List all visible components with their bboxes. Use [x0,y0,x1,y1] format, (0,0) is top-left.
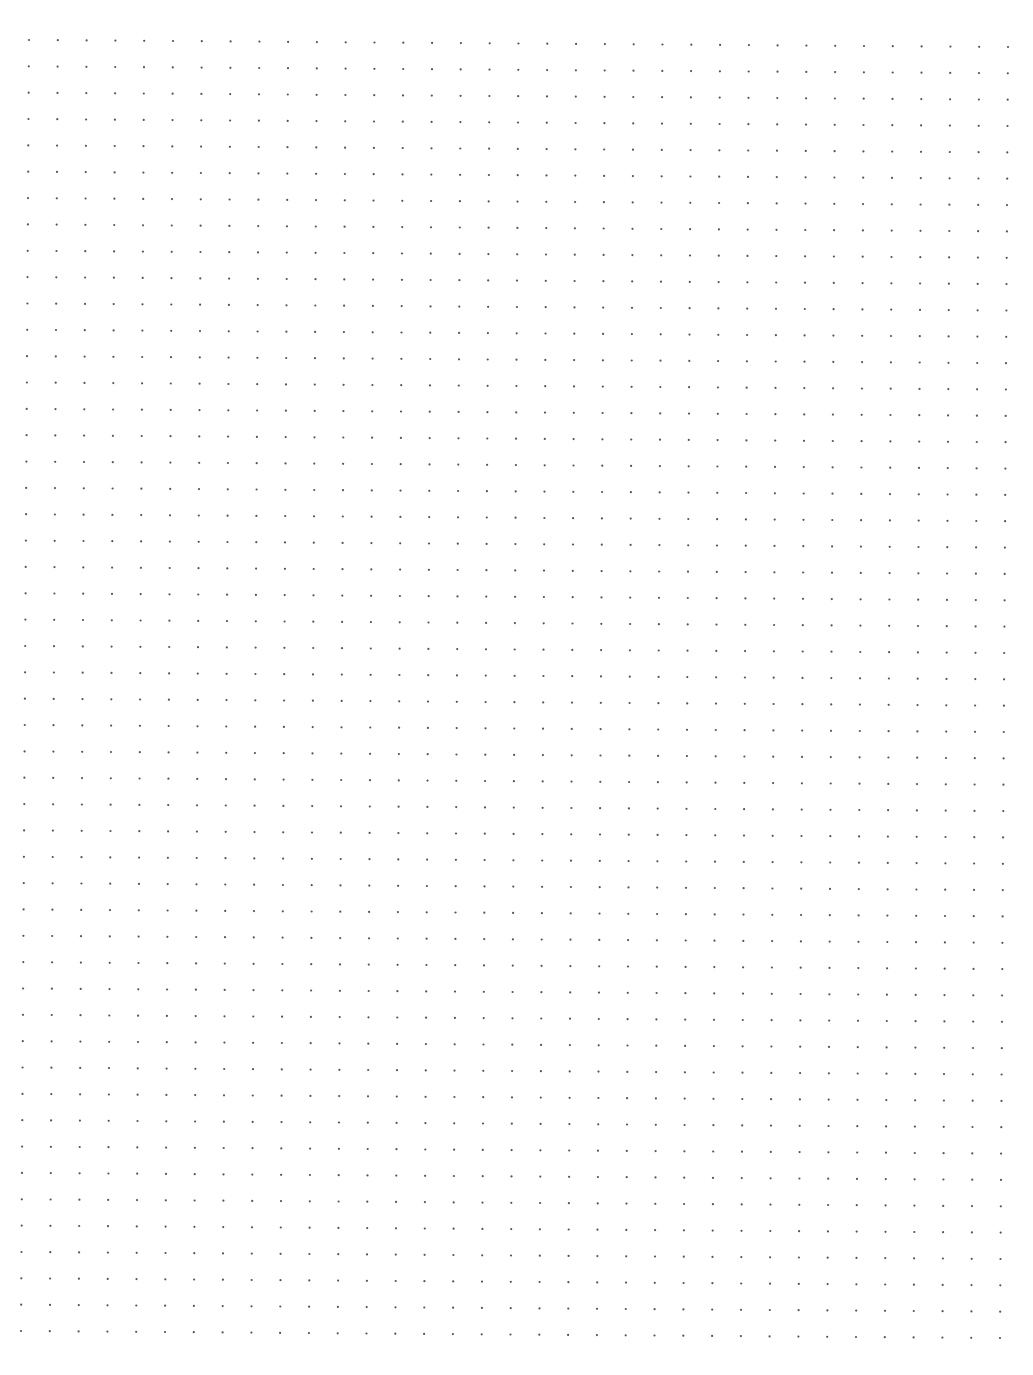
grid-dot [452,1280,454,1282]
grid-dot [546,148,548,150]
grid-dot [112,461,114,463]
grid-dot [457,516,459,518]
grid-dot [775,255,777,257]
grid-dot [713,1071,715,1073]
grid-dot [49,1330,51,1332]
grid-dot [859,625,861,627]
grid-dot [482,1175,484,1177]
grid-dot [999,1311,1001,1313]
grid-dot [337,1253,339,1255]
grid-dot [718,176,720,178]
grid-dot [1000,1126,1002,1128]
grid-dot [52,803,54,805]
grid-dot [802,624,804,626]
grid-dot [313,568,315,570]
grid-dot [774,413,776,415]
grid-dot [106,1331,108,1333]
grid-dot [855,1336,857,1338]
grid-dot [141,356,143,358]
grid-dot [863,98,865,100]
grid-dot [280,1253,282,1255]
grid-dot [141,435,143,437]
grid-dot [601,438,603,440]
grid-dot [829,835,831,837]
grid-dot [856,1099,858,1101]
grid-dot [226,594,228,596]
grid-dot [54,461,56,463]
grid-dot [512,965,514,967]
grid-dot [316,67,318,69]
grid-dot [575,96,577,98]
grid-dot [28,65,30,67]
grid-dot [27,197,29,199]
grid-dot [282,937,284,939]
grid-dot [772,861,774,863]
grid-dot [308,1279,310,1281]
grid-dot [425,1017,427,1019]
grid-dot [309,1200,311,1202]
grid-dot [397,937,399,939]
grid-dot [136,1120,138,1122]
grid-dot [918,520,920,522]
grid-dot [198,409,200,411]
grid-dot [1002,863,1004,865]
grid-dot [597,1150,599,1152]
grid-dot [596,1229,598,1231]
grid-dot [517,121,519,123]
grid-dot [136,1173,138,1175]
grid-dot [573,333,575,335]
grid-dot [685,860,687,862]
grid-dot [626,1044,628,1046]
grid-dot [914,1126,916,1128]
grid-dot [107,1252,109,1254]
grid-dot [340,779,342,781]
grid-dot [227,515,229,517]
grid-dot [714,913,716,915]
grid-dot [338,1174,340,1176]
grid-dot [944,889,946,891]
grid-dot [747,123,749,125]
grid-dot [1004,599,1006,601]
grid-dot [197,620,199,622]
grid-dot [429,384,431,386]
grid-dot [855,1310,857,1312]
grid-dot [541,938,543,940]
grid-dot [281,989,283,991]
grid-dot [774,466,776,468]
grid-dot [371,516,373,518]
grid-dot [914,1099,916,1101]
grid-dot [859,756,861,758]
grid-dot [222,1226,224,1228]
grid-dot [22,1014,24,1016]
grid-dot [517,42,519,44]
grid-dot [1003,626,1005,628]
grid-dot [311,910,313,912]
grid-dot [314,384,316,386]
grid-dot [596,1281,598,1283]
grid-dot [834,97,836,99]
grid-dot [396,1069,398,1071]
grid-dot [222,1173,224,1175]
grid-dot [109,883,111,885]
grid-dot [656,966,658,968]
grid-dot [229,198,231,200]
grid-dot [717,334,719,336]
grid-dot [829,941,831,943]
grid-dot [569,1018,571,1020]
grid-dot [113,250,115,252]
grid-dot [515,385,517,387]
grid-dot [1007,72,1009,74]
grid-dot [1004,520,1006,522]
grid-dot [114,92,116,94]
grid-dot [975,520,977,522]
grid-dot [661,149,663,151]
grid-dot [630,438,632,440]
grid-dot [344,94,346,96]
grid-dot [596,1255,598,1257]
grid-dot [946,652,948,654]
grid-dot [341,647,343,649]
grid-dot [857,967,859,969]
grid-dot [282,805,284,807]
grid-dot [85,197,87,199]
grid-dot [224,883,226,885]
